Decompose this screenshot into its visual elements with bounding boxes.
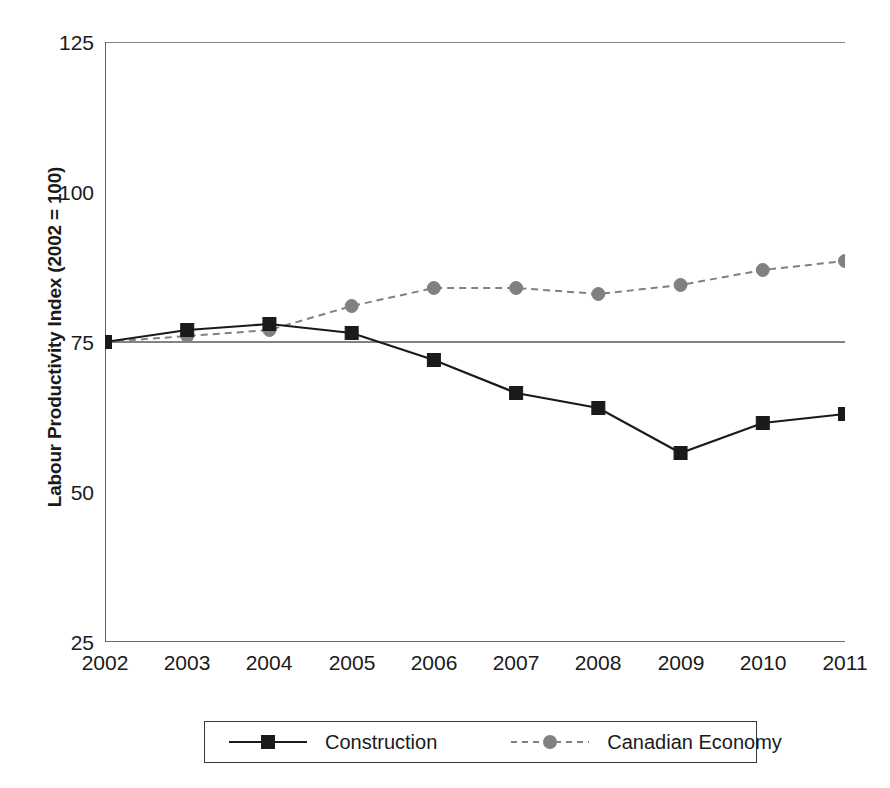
x-tick-label: 2003 [147, 652, 227, 673]
series-line [105, 261, 845, 342]
data-point-marker [105, 336, 112, 349]
x-tick-label: 2005 [312, 652, 392, 673]
x-tick-label: 2002 [65, 652, 145, 673]
series-canadian-economy [105, 255, 845, 349]
legend-label: Construction [325, 732, 437, 752]
y-tick-label: 100 [40, 182, 94, 203]
data-point-marker [263, 318, 276, 331]
y-axis-tick-labels: 125 100 75 50 25 [34, 42, 94, 642]
x-tick-label: 2008 [558, 652, 638, 673]
legend-entry-canadian-economy[interactable]: Canadian Economy [509, 722, 782, 762]
data-point-marker [756, 417, 769, 430]
x-tick-label: 2010 [723, 652, 803, 673]
legend-swatch-construction [227, 731, 309, 753]
data-point-marker [345, 327, 358, 340]
data-point-marker [345, 300, 358, 313]
legend-label: Canadian Economy [607, 732, 782, 752]
data-point-marker [427, 354, 440, 367]
x-tick-label: 2006 [394, 652, 474, 673]
data-point-marker [592, 402, 605, 415]
legend-marker [543, 735, 557, 749]
data-point-marker [510, 387, 523, 400]
data-point-marker [674, 447, 687, 460]
gridlines [105, 42, 845, 342]
y-tick-label: 25 [40, 632, 94, 653]
legend-swatch-canadian-economy [509, 731, 591, 753]
data-point-marker [674, 279, 687, 292]
legend-entry-construction[interactable]: Construction [227, 722, 437, 762]
legend-marker [261, 735, 275, 749]
chart-legend: Construction Canadian Economy [204, 721, 757, 763]
x-tick-label: 2007 [476, 652, 556, 673]
data-point-marker [756, 264, 769, 277]
data-point-marker [181, 324, 194, 337]
y-tick-label: 50 [40, 482, 94, 503]
y-tick-label: 75 [40, 332, 94, 353]
x-tick-label: 2011 [805, 652, 885, 673]
series-construction [105, 318, 845, 460]
x-axis-tick-labels: 2002 2003 2004 2005 2006 2007 2008 2009 … [105, 652, 845, 686]
data-point-marker [592, 288, 605, 301]
data-point-marker [427, 282, 440, 295]
plot-area [105, 42, 845, 642]
x-tick-label: 2004 [229, 652, 309, 673]
data-point-marker [510, 282, 523, 295]
y-tick-label: 125 [40, 32, 94, 53]
x-tick-label: 2009 [641, 652, 721, 673]
data-point-marker [839, 408, 846, 421]
data-point-marker [839, 255, 846, 268]
chart-figure: Labour Productivity Index (2002 = 100) 1… [0, 0, 890, 788]
plot-svg [105, 42, 845, 642]
series-line [105, 324, 845, 453]
